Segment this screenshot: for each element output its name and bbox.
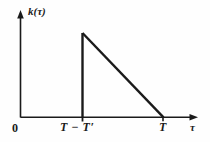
pulse-decay-ramp (83, 33, 164, 117)
x-axis-label: τ (190, 122, 195, 133)
plot-area (0, 0, 210, 142)
origin-label: 0 (12, 122, 18, 134)
x-axis-arrowhead (190, 114, 199, 121)
kernel-function-figure: k(τ) 0 T − T′ T τ (0, 0, 210, 142)
x-tick-label-t-minus-tprime: T − T′ (60, 121, 94, 133)
x-tick-label-t: T (159, 121, 166, 133)
y-axis-arrowhead (17, 10, 24, 19)
y-axis-label: k(τ) (28, 6, 46, 17)
